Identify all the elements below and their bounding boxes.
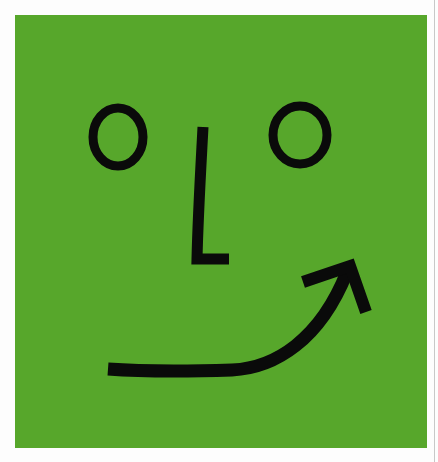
smiley-artwork [0, 0, 438, 462]
image-canvas [0, 0, 438, 462]
green-panel [15, 15, 427, 448]
right-edge-line [434, 0, 435, 462]
